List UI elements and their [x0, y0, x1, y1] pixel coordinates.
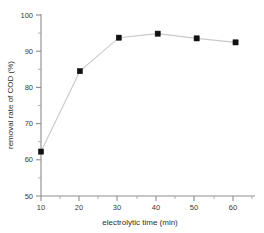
data-point: [38, 149, 43, 154]
data-point: [77, 69, 82, 74]
y-tick-label-80: 80: [25, 83, 33, 92]
data-point: [116, 35, 121, 40]
y-tick-label-100: 100: [20, 11, 33, 20]
data-point: [233, 40, 238, 45]
x-tick-label-40: 40: [152, 203, 160, 212]
data-point: [194, 36, 199, 41]
chart-plot-area: 50 60 70 80 90 100 10 20 30 40 50 60 ele…: [0, 0, 264, 233]
x-tick-label-50: 50: [190, 203, 198, 212]
y-axis-title: removal rate of COD (%): [6, 61, 15, 149]
x-axis-title: electrolytic time (min): [102, 218, 178, 227]
y-tick-label-90: 90: [25, 47, 33, 56]
x-tick-label-20: 20: [75, 203, 83, 212]
data-point: [155, 31, 160, 36]
y-tick-label-60: 60: [25, 155, 33, 164]
x-tick-label-60: 60: [229, 203, 237, 212]
chart-figure: 50 60 70 80 90 100 10 20 30 40 50 60 ele…: [0, 0, 264, 233]
x-tick-label-10: 10: [37, 203, 45, 212]
y-tick-label-50: 50: [25, 192, 33, 201]
y-tick-label-70: 70: [25, 119, 33, 128]
data-series-line: [41, 34, 236, 152]
data-series-markers: [38, 31, 238, 154]
x-tick-label-30: 30: [113, 203, 121, 212]
